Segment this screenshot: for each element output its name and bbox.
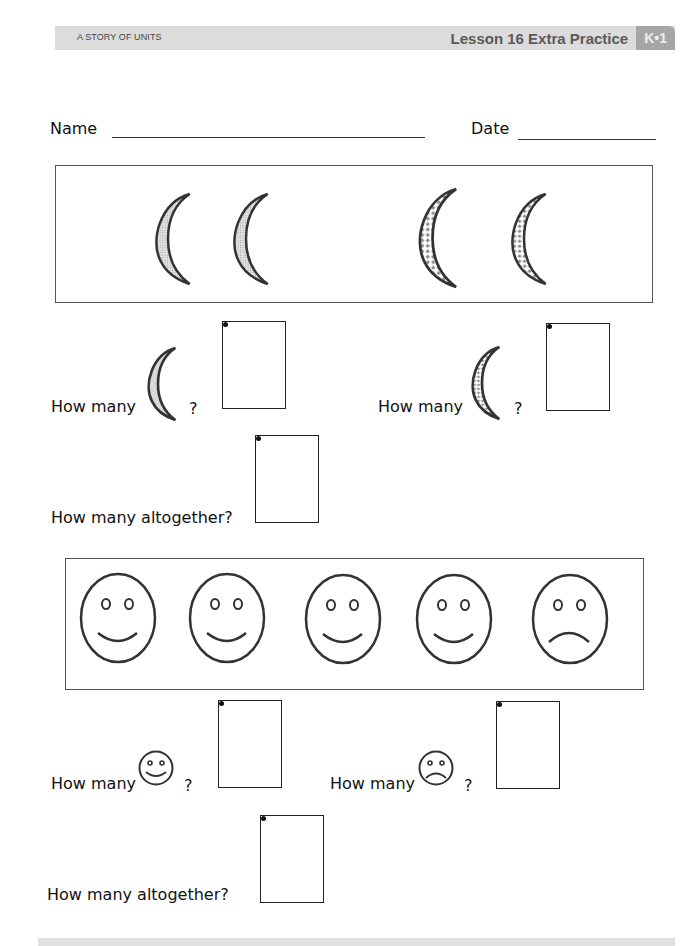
happy-face-icon — [187, 571, 267, 666]
name-label: Name — [50, 119, 97, 138]
sad-face-icon — [417, 749, 455, 787]
gray-moon-icon — [140, 348, 184, 420]
series-title: A STORY OF UNITS — [77, 32, 162, 42]
lesson-title: Lesson 16 Extra Practice — [451, 30, 629, 47]
footer-bar — [38, 938, 675, 946]
checkered-moon-icon — [416, 189, 460, 287]
question-mark: ? — [464, 776, 473, 795]
total-question-label: How many altogether? — [47, 885, 229, 904]
answer-box-faces-total[interactable] — [260, 815, 324, 903]
question-mark: ? — [184, 776, 193, 795]
gray-moon-icon — [152, 194, 194, 284]
gray-moon-icon — [230, 194, 272, 284]
date-label: Date — [471, 119, 509, 138]
checkered-moon-icon — [508, 194, 550, 284]
answer-box-moons-total[interactable] — [255, 435, 319, 523]
sad-face-icon — [530, 572, 610, 667]
happy-face-icon — [78, 571, 158, 666]
module-badge: K•1 — [636, 26, 675, 50]
happy-face-icon — [414, 572, 494, 667]
header-bar: A STORY OF UNITS Lesson 16 Extra Practic… — [55, 26, 675, 50]
happy-face-icon — [303, 572, 383, 667]
answer-box-gray-moons[interactable] — [222, 321, 286, 409]
answer-box-checkered-moons[interactable] — [546, 323, 610, 411]
question-label: How many — [51, 397, 136, 416]
checkered-moon-icon — [464, 347, 508, 419]
total-question-label: How many altogether? — [51, 508, 233, 527]
header-right: Lesson 16 Extra Practice K•1 — [451, 26, 675, 50]
question-label: How many — [51, 774, 136, 793]
moon-picture-box — [55, 165, 653, 303]
name-field[interactable] — [112, 137, 425, 138]
question-label: How many — [330, 774, 415, 793]
question-mark: ? — [189, 399, 198, 418]
date-field[interactable] — [518, 139, 656, 140]
happy-face-icon — [137, 749, 175, 787]
question-mark: ? — [514, 399, 523, 418]
question-label: How many — [378, 397, 463, 416]
answer-box-happy-faces[interactable] — [218, 700, 282, 788]
answer-box-sad-faces[interactable] — [496, 701, 560, 789]
